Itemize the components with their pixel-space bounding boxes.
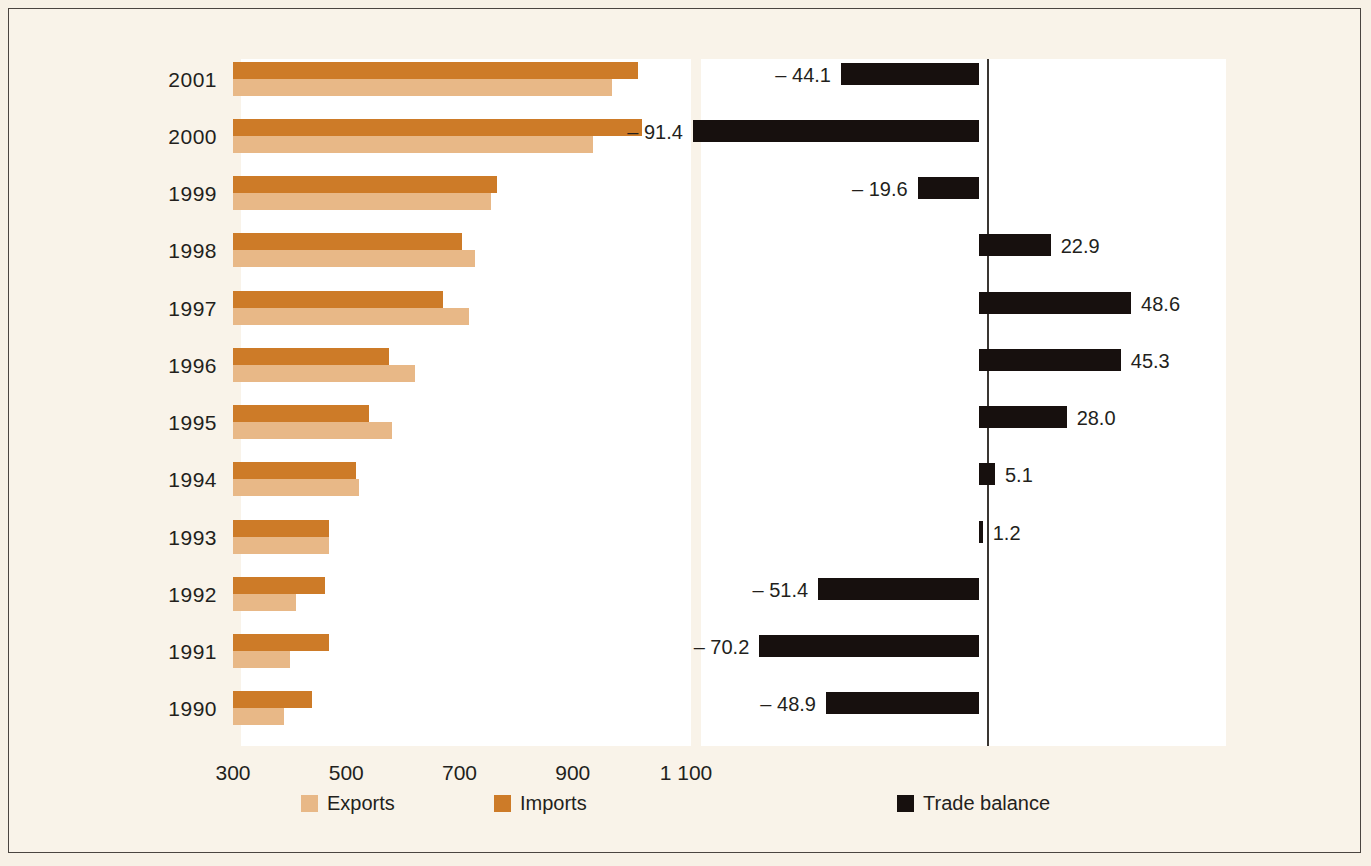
trade-balance-value-label: 45.3 [1131, 350, 1170, 373]
bar-trade-balance [693, 120, 979, 142]
bar-imports [233, 405, 369, 422]
trade-balance-value-label: 48.6 [1141, 293, 1180, 316]
year-label: 1995 [121, 411, 217, 435]
bar-trade-balance [818, 578, 979, 600]
x-axis-tick-label: 300 [215, 761, 250, 785]
trade-balance-value-label: – 19.6 [852, 178, 908, 201]
year-label: 1998 [121, 239, 217, 263]
bar-trade-balance [979, 521, 983, 543]
chart-row: 1992– 51.4 [9, 566, 1360, 623]
figure-canvas: 2001– 44.12000– 91.41999– 19.6199822.919… [0, 0, 1371, 866]
legend-item-exports[interactable]: Exports [301, 792, 395, 815]
year-label: 2000 [121, 125, 217, 149]
bar-exports [233, 193, 491, 210]
legend-label: Trade balance [923, 792, 1050, 815]
bar-trade-balance [759, 635, 979, 657]
chart-row: 199822.9 [9, 223, 1360, 280]
bar-imports [233, 520, 329, 537]
bar-imports [233, 691, 312, 708]
bar-trade-balance [826, 692, 979, 714]
bar-trade-balance [841, 63, 979, 85]
bar-exports [233, 250, 475, 267]
year-label: 2001 [121, 68, 217, 92]
bar-imports [233, 233, 462, 250]
year-label: 1994 [121, 468, 217, 492]
legend-item-trade-balance[interactable]: Trade balance [897, 792, 1050, 815]
trade-balance-value-label: – 48.9 [760, 693, 816, 716]
year-label: 1996 [121, 354, 217, 378]
chart-row: 19931.2 [9, 509, 1360, 566]
bar-imports [233, 62, 638, 79]
chart-row: 199645.3 [9, 337, 1360, 394]
trade-balance-value-label: – 70.2 [694, 636, 750, 659]
x-axis-tick-label: 900 [555, 761, 590, 785]
bar-trade-balance [979, 234, 1051, 256]
year-label: 1993 [121, 526, 217, 550]
legend-swatch-icon [494, 795, 511, 812]
trade-balance-value-label: – 51.4 [753, 579, 809, 602]
trade-balance-value-label: 1.2 [993, 522, 1021, 545]
chart-row: 19945.1 [9, 452, 1360, 509]
chart-frame: 2001– 44.12000– 91.41999– 19.6199822.919… [8, 8, 1361, 853]
bar-exports [233, 365, 415, 382]
bar-trade-balance [979, 292, 1131, 314]
chart-row: 1991– 70.2 [9, 624, 1360, 681]
year-label: 1999 [121, 182, 217, 206]
trade-balance-value-label: – 91.4 [627, 121, 683, 144]
trade-balance-value-label: 5.1 [1005, 464, 1033, 487]
trade-balance-value-label: 22.9 [1061, 235, 1100, 258]
bar-imports [233, 462, 356, 479]
bar-imports [233, 634, 329, 651]
bar-exports [233, 308, 469, 325]
chart-row: 199528.0 [9, 395, 1360, 452]
trade-balance-value-label: – 44.1 [775, 64, 831, 87]
bar-imports [233, 176, 497, 193]
bar-exports [233, 537, 329, 554]
bar-trade-balance [979, 349, 1121, 371]
chart-row: 199748.6 [9, 280, 1360, 337]
x-axis-tick-label: 1 100 [660, 761, 713, 785]
bar-imports [233, 348, 389, 365]
bar-exports [233, 651, 290, 668]
x-axis-tick-label: 700 [442, 761, 477, 785]
bar-exports [233, 136, 593, 153]
bar-exports [233, 479, 359, 496]
bar-imports [233, 291, 443, 308]
bar-trade-balance [979, 463, 995, 485]
bar-exports [233, 79, 612, 96]
x-axis-tick-label: 500 [329, 761, 364, 785]
legend-label: Imports [520, 792, 587, 815]
chart-row: 1999– 19.6 [9, 166, 1360, 223]
chart-row: 1990– 48.9 [9, 681, 1360, 738]
chart-row: 2000– 91.4 [9, 108, 1360, 165]
trade-balance-value-label: 28.0 [1077, 407, 1116, 430]
legend-item-imports[interactable]: Imports [494, 792, 587, 815]
bar-imports [233, 577, 325, 594]
year-label: 1990 [121, 697, 217, 721]
bar-exports [233, 708, 284, 725]
legend-swatch-icon [301, 795, 318, 812]
bar-exports [233, 422, 392, 439]
bar-exports [233, 594, 296, 611]
year-label: 1992 [121, 583, 217, 607]
bar-trade-balance [979, 406, 1067, 428]
legend-swatch-icon [897, 795, 914, 812]
legend-label: Exports [327, 792, 395, 815]
year-label: 1991 [121, 640, 217, 664]
bar-trade-balance [918, 177, 979, 199]
year-label: 1997 [121, 297, 217, 321]
chart-row: 2001– 44.1 [9, 51, 1360, 108]
bar-imports [233, 119, 642, 136]
